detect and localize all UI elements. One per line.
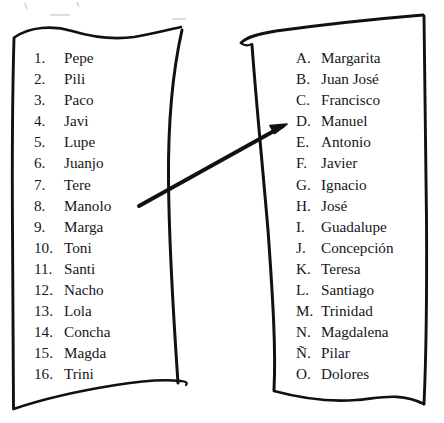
list-item[interactable]: O. Dolores (296, 363, 428, 384)
list-item-label: Lupe (64, 131, 95, 152)
list-item[interactable]: 4. Javi (34, 110, 164, 131)
list-item-marker: M. (296, 300, 321, 321)
list-item-marker: 2. (34, 68, 64, 89)
list-item-label: Magdalena (321, 321, 388, 342)
list-item[interactable]: 9. Marga (34, 216, 164, 237)
lettered-name-list: A. Margarita B. Juan José C. Francisco D… (296, 47, 428, 385)
list-item-marker: 15. (34, 342, 64, 363)
list-item[interactable]: H. José (296, 195, 428, 216)
list-item-label: Antonio (321, 131, 371, 152)
list-item-marker: J. (296, 237, 321, 258)
list-item-marker: 14. (34, 321, 64, 342)
list-item-marker: B. (296, 68, 321, 89)
list-item-label: Tere (64, 174, 91, 195)
list-item-marker: 12. (34, 279, 64, 300)
list-item-marker: E. (296, 131, 321, 152)
list-item[interactable]: C. Francisco (296, 89, 428, 110)
list-item[interactable]: 14. Concha (34, 321, 164, 342)
list-item-label: Guadalupe (321, 216, 387, 237)
list-item-marker: 3. (34, 89, 64, 110)
list-item[interactable]: K. Teresa (296, 258, 428, 279)
list-item-label: Marga (64, 216, 103, 237)
list-item-label: Trinidad (321, 300, 373, 321)
list-item[interactable]: D. Manuel (296, 110, 428, 131)
list-item-marker: A. (296, 47, 321, 68)
list-item[interactable]: 7. Tere (34, 174, 164, 195)
list-item-label: Margarita (321, 47, 381, 68)
list-item[interactable]: 1. Pepe (34, 47, 164, 68)
numbered-name-list: 1. Pepe 2. Pili 3. Paco 4. Javi 5. Lupe … (34, 47, 164, 385)
list-item-marker: D. (296, 110, 321, 131)
list-item-label: Francisco (321, 89, 380, 110)
list-item-marker: 9. (34, 216, 64, 237)
scan-artifacts (25, 2, 186, 19)
list-item[interactable]: B. Juan José (296, 68, 428, 89)
list-item-label: Pili (64, 68, 85, 89)
list-item-marker: 11. (34, 258, 64, 279)
list-item-label: Toni (64, 237, 92, 258)
list-item-marker: Ñ. (296, 342, 321, 363)
list-item-label: Santiago (321, 279, 374, 300)
list-item-label: Manolo (64, 195, 111, 216)
list-item-marker: H. (296, 195, 321, 216)
list-item[interactable]: 15. Magda (34, 342, 164, 363)
list-item-label: Concha (64, 321, 110, 342)
list-item-marker: 4. (34, 110, 64, 131)
list-item[interactable]: F. Javier (296, 152, 428, 173)
list-item-label: Paco (64, 89, 94, 110)
list-item-label: Javi (64, 110, 88, 131)
list-item-marker: L. (296, 279, 321, 300)
list-item-label: Manuel (321, 110, 367, 131)
list-item[interactable]: E. Antonio (296, 131, 428, 152)
list-item[interactable]: I. Guadalupe (296, 216, 428, 237)
list-item[interactable]: 5. Lupe (34, 131, 164, 152)
list-item-marker: 5. (34, 131, 64, 152)
list-item[interactable]: 2. Pili (34, 68, 164, 89)
list-item-label: Teresa (321, 258, 360, 279)
list-item-label: Lola (64, 300, 92, 321)
list-item-label: Pepe (64, 47, 94, 68)
list-item-marker: O. (296, 363, 321, 384)
list-item[interactable]: 13. Lola (34, 300, 164, 321)
list-item[interactable]: J. Concepción (296, 237, 428, 258)
list-item-label: Santi (64, 258, 95, 279)
list-item-label: Nacho (64, 279, 104, 300)
list-item-marker: 6. (34, 152, 64, 173)
list-item-marker: I. (296, 216, 321, 237)
sketch-page: 1. Pepe 2. Pili 3. Paco 4. Javi 5. Lupe … (0, 0, 444, 423)
list-item-marker: K. (296, 258, 321, 279)
list-item[interactable]: A. Margarita (296, 47, 428, 68)
list-item[interactable]: Ñ. Pilar (296, 342, 428, 363)
list-item[interactable]: 6. Juanjo (34, 152, 164, 173)
list-item-marker: 8. (34, 195, 64, 216)
list-item-label: Trini (64, 363, 94, 384)
list-item[interactable]: 10. Toni (34, 237, 164, 258)
list-item-marker: 13. (34, 300, 64, 321)
list-item-label: Javier (321, 152, 357, 173)
list-item[interactable]: 16. Trini (34, 363, 164, 384)
list-item[interactable]: N. Magdalena (296, 321, 428, 342)
list-item[interactable]: 12. Nacho (34, 279, 164, 300)
list-item[interactable]: 3. Paco (34, 89, 164, 110)
list-item-label: Pilar (321, 342, 350, 363)
list-item[interactable]: 8. Manolo (34, 195, 164, 216)
list-item-label: Juanjo (64, 152, 104, 173)
list-item-label: Ignacio (321, 174, 367, 195)
list-item-marker: G. (296, 174, 321, 195)
list-item-marker: 16. (34, 363, 64, 384)
list-item-marker: C. (296, 89, 321, 110)
list-item[interactable]: M. Trinidad (296, 300, 428, 321)
list-item-label: Concepción (321, 237, 394, 258)
list-item-marker: N. (296, 321, 321, 342)
list-item-label: José (321, 195, 347, 216)
list-item-marker: 1. (34, 47, 64, 68)
list-item-label: Dolores (321, 363, 369, 384)
list-item-marker: F. (296, 152, 321, 173)
list-item[interactable]: L. Santiago (296, 279, 428, 300)
list-item[interactable]: G. Ignacio (296, 174, 428, 195)
list-item-marker: 10. (34, 237, 64, 258)
list-item-marker: 7. (34, 174, 64, 195)
list-item-label: Magda (64, 342, 106, 363)
list-item-label: Juan José (321, 68, 379, 89)
list-item[interactable]: 11. Santi (34, 258, 164, 279)
